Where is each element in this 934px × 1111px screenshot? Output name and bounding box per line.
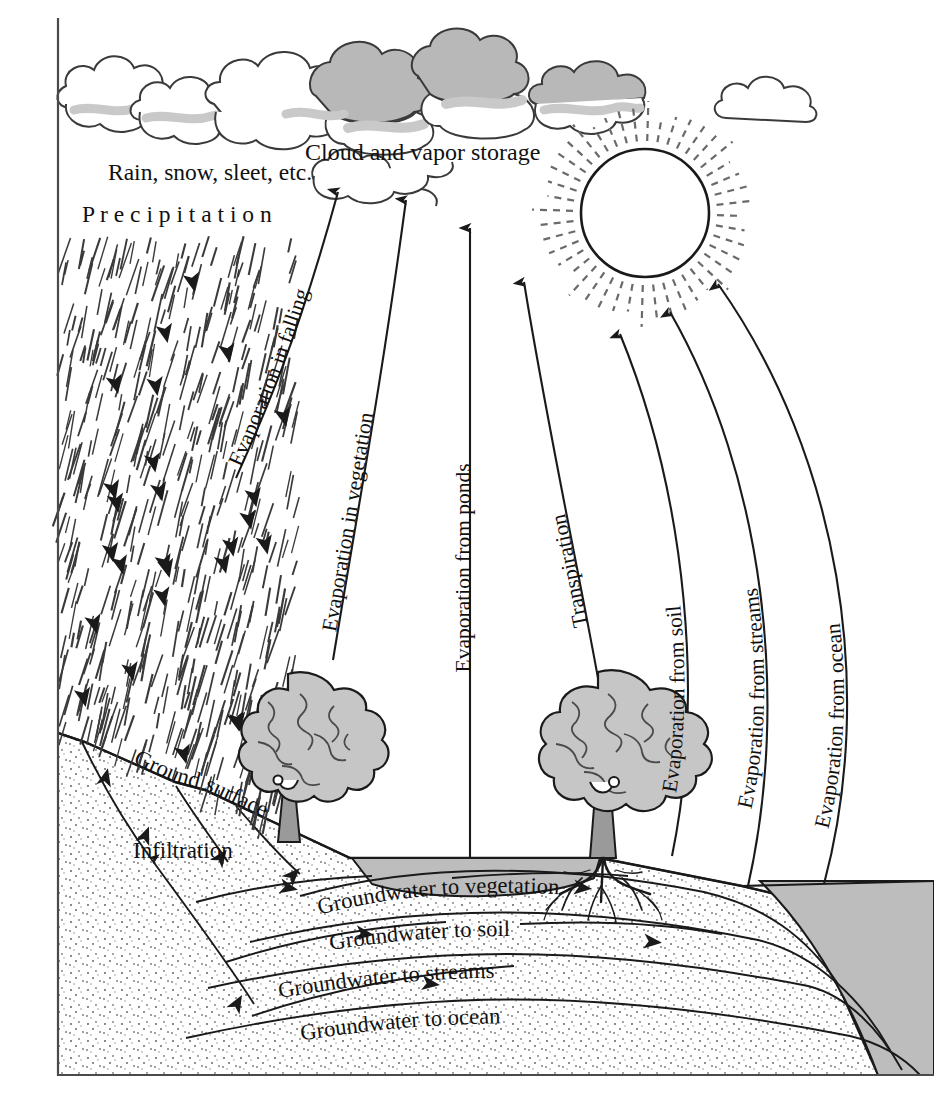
label-infiltration: Infiltration	[133, 838, 233, 863]
label-rain-types: Rain, snow, sleet, etc.	[108, 159, 312, 185]
hydrologic-cycle-figure: Rain, snow, sleet, etc. P r e c i p i t …	[0, 0, 934, 1111]
label-cloud-and-vapor-storage: Cloud and vapor storage	[305, 139, 540, 165]
label-precipitation: P r e c i p i t a t i o n	[82, 201, 272, 227]
label-evaporation-from-ponds: Evaporation from ponds	[451, 463, 475, 672]
sun-disc	[581, 149, 709, 277]
diagram-canvas: Rain, snow, sleet, etc. P r e c i p i t …	[0, 0, 934, 1111]
